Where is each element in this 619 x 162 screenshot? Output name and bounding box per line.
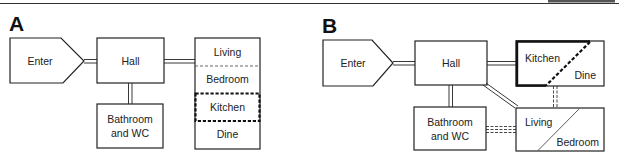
- room-label-living: Living: [525, 116, 553, 128]
- room-label-bedroom: Bedroom: [206, 73, 249, 85]
- room-label-dine: Dine: [217, 128, 239, 140]
- room-label: and WC: [111, 127, 149, 139]
- room-label-dine: Dine: [574, 69, 596, 81]
- room-label: Hall: [121, 55, 139, 67]
- room-label: and WC: [431, 130, 469, 142]
- room-label: Enter: [340, 57, 366, 69]
- room-enter-a: Enter: [10, 38, 84, 83]
- panel-b-letter: B: [322, 14, 337, 37]
- connector-enter-hall-a: [84, 60, 97, 64]
- room-label: Enter: [27, 55, 53, 67]
- room-label: Bathroom: [427, 116, 473, 128]
- panel-a: A Enter Hall Bathroom and WC: [9, 12, 260, 149]
- connector-bathroom-living-b: [486, 127, 516, 133]
- room-hall-b: Hall: [415, 41, 487, 85]
- room-label-living: Living: [214, 46, 242, 58]
- panel-b: B Enter Hall: [322, 14, 604, 151]
- room-label-bedroom: Bedroom: [556, 136, 599, 148]
- connector-enter-hall-b: [393, 62, 415, 66]
- room-label: Bathroom: [107, 113, 153, 125]
- room-hall-a: Hall: [97, 38, 164, 83]
- room-label-kitchen: Kitchen: [210, 101, 245, 113]
- connector-hall-kitchen-b: [487, 62, 516, 66]
- connector-kitchen-living-b: [554, 86, 558, 108]
- connector-hall-bathroom-a: [129, 83, 133, 104]
- room-bathroom-a: Bathroom and WC: [97, 104, 163, 148]
- panel-a-letter: A: [9, 12, 24, 35]
- room-column-a: Living Bedroom Kitchen Dine: [195, 38, 260, 149]
- floor-plan-diagram: A Enter Hall Bathroom and WC: [0, 0, 619, 162]
- room-bathroom-b: Bathroom and WC: [414, 107, 486, 150]
- room-kitchen-dine-b: Kitchen Dine: [516, 41, 604, 86]
- connector-hall-living-b: [483, 83, 518, 108]
- top-rule-tab: [548, 0, 615, 3]
- connector-hall-living-a: [164, 60, 195, 64]
- room-label: Hall: [442, 57, 460, 69]
- room-living-bedroom-b: Living Bedroom: [516, 108, 604, 151]
- room-enter-b: Enter: [323, 40, 393, 86]
- connector-hall-bathroom-b: [449, 85, 453, 107]
- room-label-kitchen: Kitchen: [525, 52, 560, 64]
